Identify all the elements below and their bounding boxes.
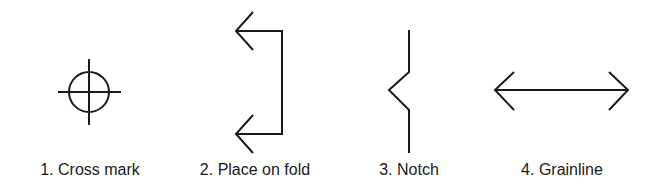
notch-label: 3. Notch (379, 161, 439, 179)
pattern-symbols-diagram (0, 0, 666, 187)
place-on-fold-icon (236, 12, 282, 153)
grainline-label: 4. Grainline (521, 161, 603, 179)
place-on-fold-label: 2. Place on fold (200, 161, 310, 179)
cross-mark-icon (58, 59, 121, 125)
notch-icon (389, 30, 409, 153)
cross-mark-label: 1. Cross mark (40, 161, 140, 179)
grainline-icon (495, 72, 628, 110)
